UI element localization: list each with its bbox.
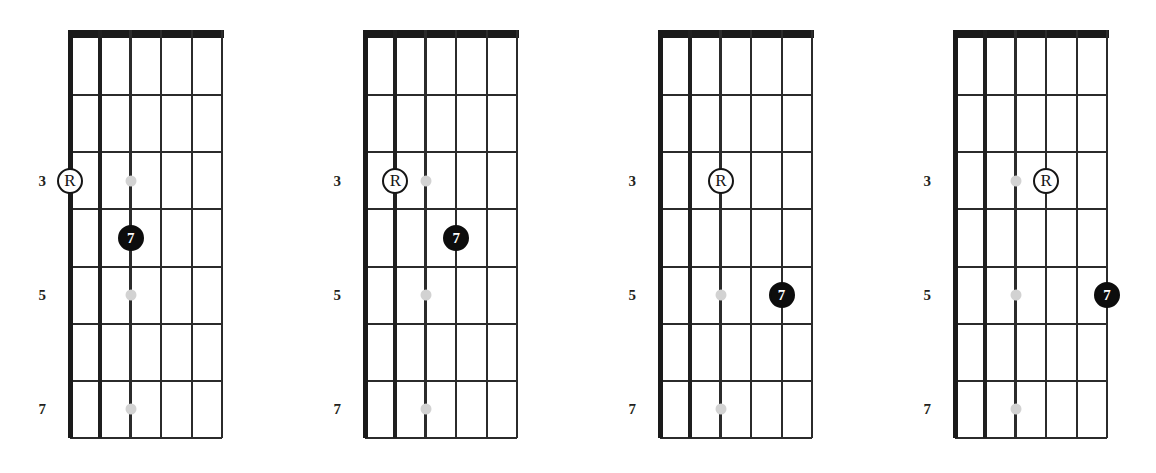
fret-wire-2 (365, 151, 517, 153)
interval-marker-s3-f4[interactable]: 7 (118, 225, 144, 251)
fret-number-label-5: 5 (616, 288, 636, 303)
fret-wire-4 (660, 266, 812, 268)
fret-wire-1 (70, 94, 222, 96)
inlay-dot-fret-7 (125, 404, 136, 415)
fretboard-grid: R7 (660, 30, 812, 438)
fret-number-gutter: 357 (590, 0, 660, 473)
fret-wire-6 (955, 380, 1107, 382)
string-line-3 (719, 30, 722, 438)
string-line-5 (1076, 30, 1078, 438)
fretboard-diagram-1: 357R7 (0, 0, 289, 473)
fret-wire-4 (70, 266, 222, 268)
fret-number-label-3: 3 (911, 173, 931, 188)
fretboard-diagram-3: 357R7 (590, 0, 879, 473)
string-line-2 (688, 30, 692, 438)
fret-number-gutter: 357 (0, 0, 70, 473)
fretboard-grid: R7 (70, 30, 222, 438)
fret-number-label-5: 5 (321, 288, 341, 303)
fret-number-label-5: 5 (911, 288, 931, 303)
fret-wire-3 (365, 208, 517, 210)
string-line-2 (393, 30, 397, 438)
fretboard-grid: R7 (365, 30, 517, 438)
fret-wire-5 (365, 323, 517, 325)
root-marker-s3-f3[interactable]: R (708, 168, 734, 194)
fret-number-label-3: 3 (321, 173, 341, 188)
fretboard-diagram-2: 357R7 (295, 0, 584, 473)
string-line-5 (486, 30, 488, 438)
string-line-6 (516, 30, 518, 438)
string-line-4 (750, 30, 752, 438)
string-line-5 (191, 30, 193, 438)
inlay-dot-fret-5 (125, 290, 136, 301)
root-marker-s1-f3[interactable]: R (57, 168, 83, 194)
string-line-2 (98, 30, 102, 438)
fret-wire-6 (365, 380, 517, 382)
inlay-dot-fret-5 (1010, 290, 1021, 301)
fret-wire-1 (955, 94, 1107, 96)
inlay-dot-fret-3 (420, 175, 431, 186)
fret-wire-3 (660, 208, 812, 210)
string-line-4 (160, 30, 162, 438)
fret-wire-4 (955, 266, 1107, 268)
fret-wire-6 (70, 380, 222, 382)
fret-number-label-5: 5 (26, 288, 46, 303)
nut (363, 30, 519, 38)
fret-wire-7 (70, 437, 222, 439)
fret-wire-2 (955, 151, 1107, 153)
string-line-1 (953, 30, 958, 438)
interval-marker-s5-f5[interactable]: 7 (769, 282, 795, 308)
fret-wire-5 (955, 323, 1107, 325)
root-marker-s2-f3[interactable]: R (382, 168, 408, 194)
inlay-dot-fret-3 (1010, 175, 1021, 186)
string-line-2 (983, 30, 987, 438)
fretboard-diagrams-row: 357R7357R7357R7357R7 (0, 0, 1156, 473)
nut (953, 30, 1109, 38)
fret-number-label-7: 7 (321, 402, 341, 417)
inlay-dot-fret-7 (1010, 404, 1021, 415)
fret-wire-5 (660, 323, 812, 325)
interval-marker-s6-f5[interactable]: 7 (1094, 282, 1120, 308)
inlay-dot-fret-3 (125, 175, 136, 186)
fret-number-label-3: 3 (616, 173, 636, 188)
string-line-1 (68, 30, 73, 438)
string-line-1 (363, 30, 368, 438)
inlay-dot-fret-5 (420, 290, 431, 301)
fretboard-grid: R7 (955, 30, 1107, 438)
fret-wire-3 (70, 208, 222, 210)
fret-wire-1 (660, 94, 812, 96)
fret-wire-7 (955, 437, 1107, 439)
nut (68, 30, 224, 38)
root-marker-s4-f3[interactable]: R (1033, 168, 1059, 194)
string-line-4 (1045, 30, 1047, 438)
fret-number-gutter: 357 (885, 0, 955, 473)
inlay-dot-fret-7 (420, 404, 431, 415)
fret-wire-7 (660, 437, 812, 439)
fret-wire-3 (955, 208, 1107, 210)
inlay-dot-fret-7 (715, 404, 726, 415)
fret-number-label-7: 7 (616, 402, 636, 417)
fret-wire-5 (70, 323, 222, 325)
fret-number-label-7: 7 (911, 402, 931, 417)
fret-wire-2 (70, 151, 222, 153)
string-line-3 (424, 30, 427, 438)
fret-number-label-7: 7 (26, 402, 46, 417)
string-line-3 (1014, 30, 1017, 438)
fret-number-label-3: 3 (26, 173, 46, 188)
string-line-6 (811, 30, 813, 438)
string-line-5 (781, 30, 783, 438)
string-line-1 (658, 30, 663, 438)
nut (658, 30, 814, 38)
inlay-dot-fret-5 (715, 290, 726, 301)
fretboard-diagram-4: 357R7 (885, 0, 1156, 473)
fret-wire-4 (365, 266, 517, 268)
fret-wire-1 (365, 94, 517, 96)
fret-wire-6 (660, 380, 812, 382)
string-line-6 (221, 30, 223, 438)
fret-wire-2 (660, 151, 812, 153)
fret-wire-7 (365, 437, 517, 439)
fret-number-gutter: 357 (295, 0, 365, 473)
string-line-6 (1106, 30, 1108, 438)
interval-marker-s4-f4[interactable]: 7 (443, 225, 469, 251)
